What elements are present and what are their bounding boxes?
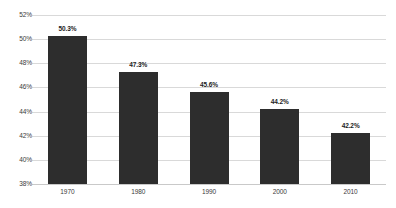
- bar-value-label: 45.6%: [200, 82, 218, 89]
- labels-group: 50.3%197047.3%198045.6%199044.2%200042.2…: [0, 0, 396, 208]
- x-axis-tick-label: 1990: [202, 189, 216, 196]
- x-axis-tick-label: 2000: [273, 189, 287, 196]
- x-axis-tick-label: 2010: [344, 189, 358, 196]
- bar-value-label: 42.2%: [342, 123, 360, 130]
- bar-value-label: 44.2%: [271, 99, 289, 106]
- bar-chart: 38%40%42%44%46%48%50%52% 50.3%197047.3%1…: [0, 0, 396, 208]
- bar-value-label: 50.3%: [58, 26, 76, 33]
- bar-value-label: 47.3%: [129, 62, 147, 69]
- x-axis-tick-label: 1980: [131, 189, 145, 196]
- x-axis-tick-label: 1970: [60, 189, 74, 196]
